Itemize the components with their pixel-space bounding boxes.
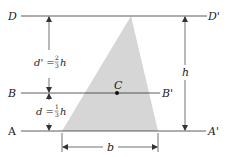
triangle-centroid-diagram: D D' B B' A A' C d' = 2 3 h d = 1 3 h h … xyxy=(0,0,230,157)
d-num: 1 xyxy=(55,103,59,110)
d-prime-lhs: d' = xyxy=(34,57,55,68)
label-centroid: C xyxy=(114,79,123,92)
d-prime-var: h xyxy=(60,57,66,68)
triangle-area xyxy=(62,16,158,131)
label-h: h xyxy=(182,66,189,79)
label-b: b xyxy=(107,141,114,154)
d-lhs: d = xyxy=(36,106,54,117)
label-D: D xyxy=(7,10,17,23)
d-var: h xyxy=(60,106,66,117)
d-den: 3 xyxy=(55,111,59,118)
label-B: B xyxy=(7,87,16,100)
d-prime-den: 3 xyxy=(55,62,59,69)
label-A-prime: A' xyxy=(207,125,219,138)
label-D-prime: D' xyxy=(207,10,220,23)
label-B-prime: B' xyxy=(161,87,173,100)
label-A: A xyxy=(7,125,17,138)
d-prime-num: 2 xyxy=(55,54,59,61)
